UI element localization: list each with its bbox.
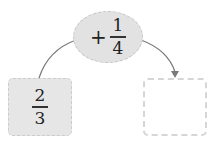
fraction-denominator: 4	[112, 40, 123, 57]
start-box: 2 3	[8, 78, 72, 136]
operation-fraction: 1 4	[110, 17, 126, 56]
arrowhead-icon	[171, 71, 179, 78]
fraction-denominator: 3	[35, 110, 46, 127]
operation-bubble: + 1 4	[73, 11, 143, 63]
plus-operator: +	[90, 27, 107, 47]
fraction-numerator: 1	[112, 17, 123, 34]
fraction-numerator: 2	[35, 87, 46, 104]
arc-from-start	[39, 40, 76, 78]
result-box[interactable]	[143, 78, 207, 136]
arc-to-result	[141, 40, 175, 72]
start-fraction: 2 3	[32, 87, 48, 126]
